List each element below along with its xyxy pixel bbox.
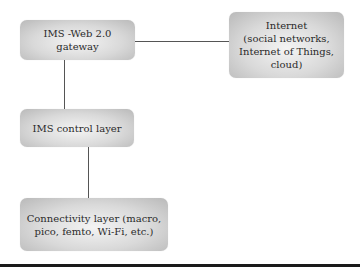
node-ims-web-gateway: IMS -Web 2.0 gateway	[20, 20, 135, 60]
node-label: Connectivity layer (macro, pico, femto, …	[27, 212, 162, 238]
bottom-rule	[0, 264, 360, 267]
node-internet: Internet (social networks, Internet of T…	[229, 12, 344, 78]
node-label: Internet (social networks, Internet of T…	[229, 19, 344, 71]
node-label: IMS -Web 2.0 gateway	[44, 27, 112, 53]
edge-control-connectivity	[88, 147, 89, 199]
node-label: IMS control layer	[33, 122, 122, 135]
edge-gateway-control	[64, 60, 65, 110]
node-ims-control-layer: IMS control layer	[20, 109, 134, 147]
node-connectivity-layer: Connectivity layer (macro, pico, femto, …	[20, 198, 168, 251]
edge-gateway-internet	[134, 41, 230, 42]
